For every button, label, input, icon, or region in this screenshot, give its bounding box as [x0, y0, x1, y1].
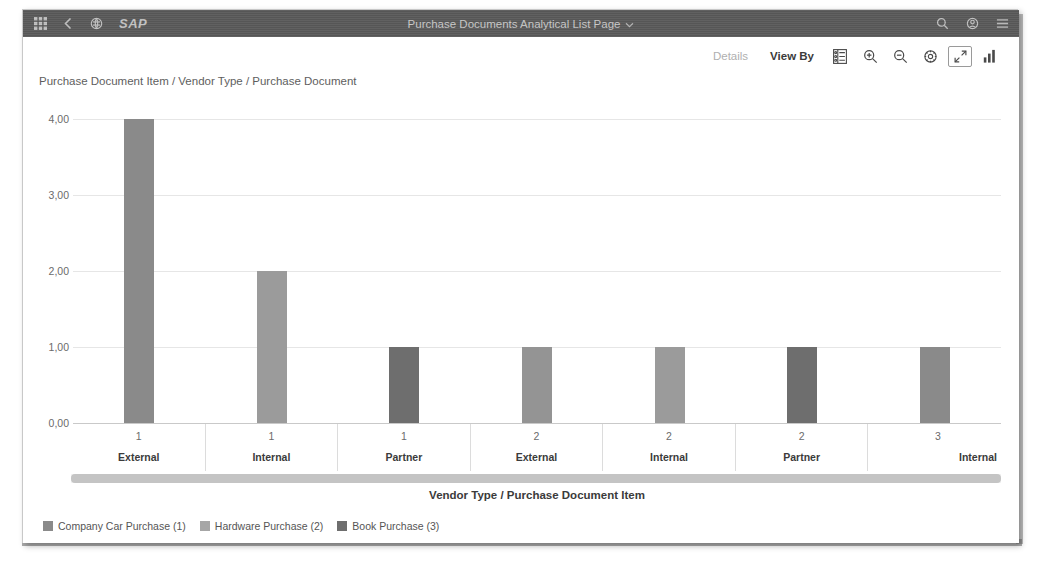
category-item-number: 3 — [935, 429, 1001, 444]
legend-label: Hardware Purchase (2) — [215, 520, 324, 532]
chart-bar[interactable] — [920, 347, 950, 423]
category-axis-cell[interactable]: 1External — [73, 424, 206, 471]
legend-item[interactable]: Hardware Purchase (2) — [200, 520, 324, 532]
category-item-number: 2 — [666, 429, 672, 444]
zoom-out-icon[interactable] — [885, 44, 915, 68]
category-item-number: 1 — [401, 429, 407, 444]
category-axis-cell[interactable]: 2Internal — [603, 424, 736, 471]
shell-title-group: Purchase Documents Analytical List Page — [23, 18, 1019, 30]
application-window: SAP Purchase Documents Analytical List P… — [22, 9, 1018, 543]
chevron-down-icon[interactable] — [625, 18, 634, 30]
sap-logo: SAP — [119, 16, 147, 31]
legend-item[interactable]: Company Car Purchase (1) — [43, 520, 186, 532]
category-vendor-type-label: Internal — [959, 449, 1001, 465]
category-axis-cell[interactable]: 3Internal — [868, 424, 1001, 471]
category-vendor-type-label: Partner — [783, 449, 820, 465]
category-axis-cell[interactable]: 2Partner — [736, 424, 869, 471]
y-axis-tick-label: 4,00 — [25, 113, 69, 125]
category-vendor-type-label: Partner — [386, 449, 423, 465]
overflow-menu-icon[interactable] — [995, 16, 1010, 31]
zoom-in-icon[interactable] — [855, 44, 885, 68]
legend-toggle-icon[interactable] — [825, 44, 855, 68]
home-icon[interactable] — [89, 16, 104, 31]
category-axis-cell[interactable]: 2External — [471, 424, 604, 471]
legend-color-swatch — [43, 521, 53, 531]
horizontal-scrollbar[interactable] — [71, 474, 1001, 483]
category-item-number: 1 — [136, 429, 142, 444]
legend-color-swatch — [337, 521, 347, 531]
category-vendor-type-label: Internal — [252, 449, 290, 465]
plot-area — [73, 119, 1001, 423]
chart-bar[interactable] — [522, 347, 552, 423]
sap-shell-bar: SAP Purchase Documents Analytical List P… — [23, 10, 1019, 37]
user-settings-icon[interactable] — [965, 16, 980, 31]
scrollbar-thumb[interactable] — [71, 474, 1001, 483]
gridline — [73, 271, 1001, 272]
category-item-number: 2 — [799, 429, 805, 444]
y-axis: 0,001,002,003,004,00 — [23, 119, 69, 424]
details-button[interactable]: Details — [702, 50, 759, 62]
chart-bar[interactable] — [257, 271, 287, 423]
category-vendor-type-label: Internal — [650, 449, 688, 465]
chart-content-area: Details View By — [23, 37, 1019, 543]
category-axis: 1External1Internal1Partner2External2Inte… — [73, 424, 1001, 471]
y-axis-tick-label: 0,00 — [25, 417, 69, 429]
chart-type-icon[interactable] — [975, 44, 1005, 68]
chart-bar[interactable] — [124, 119, 154, 423]
legend-label: Company Car Purchase (1) — [58, 520, 186, 532]
chart-toolbar: Details View By — [702, 42, 1005, 70]
category-vendor-type-label: External — [118, 449, 159, 465]
chart-dimension-breadcrumb: Purchase Document Item / Vendor Type / P… — [39, 75, 356, 87]
category-vendor-type-label: External — [516, 449, 557, 465]
chart-legend: Company Car Purchase (1)Hardware Purchas… — [43, 520, 439, 532]
category-item-number: 1 — [268, 429, 274, 444]
legend-item[interactable]: Book Purchase (3) — [337, 520, 439, 532]
legend-label: Book Purchase (3) — [352, 520, 439, 532]
gridline — [73, 195, 1001, 196]
legend-color-swatch — [200, 521, 210, 531]
x-axis-title: Vendor Type / Purchase Document Item — [73, 489, 1001, 501]
view-by-button[interactable]: View By — [759, 50, 825, 62]
y-axis-tick-label: 1,00 — [25, 341, 69, 353]
back-chevron-icon[interactable] — [61, 16, 76, 31]
page-title: Purchase Documents Analytical List Page — [408, 18, 621, 30]
chart-bar[interactable] — [389, 347, 419, 423]
gridline — [73, 119, 1001, 120]
search-icon[interactable] — [935, 16, 950, 31]
settings-gear-icon[interactable] — [915, 44, 945, 68]
chart-bar[interactable] — [787, 347, 817, 423]
grid-menu-icon[interactable] — [33, 16, 48, 31]
category-item-number: 2 — [534, 429, 540, 444]
y-axis-tick-label: 3,00 — [25, 189, 69, 201]
category-axis-cell[interactable]: 1Partner — [338, 424, 471, 471]
category-axis-cell[interactable]: 1Internal — [206, 424, 339, 471]
chart-bar[interactable] — [655, 347, 685, 423]
y-axis-tick-label: 2,00 — [25, 265, 69, 277]
fullscreen-icon[interactable] — [948, 46, 972, 67]
